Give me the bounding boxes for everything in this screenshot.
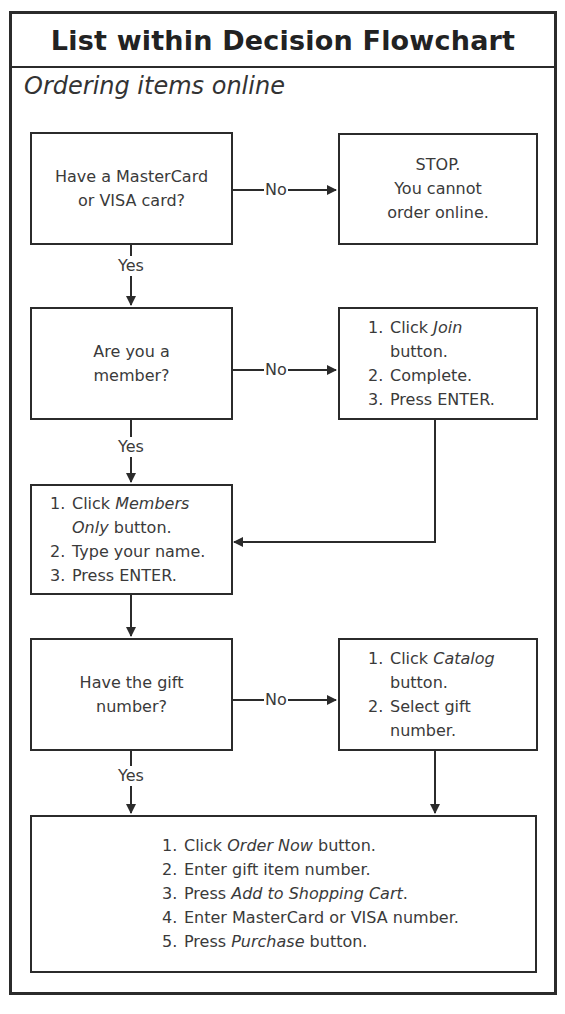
node-text: or VISA card? [78,189,185,213]
step-text: Press ENTER. [390,390,495,409]
process-order-steps: 1. Click Order Now button. 2. Enter gift… [30,815,537,973]
decision-has-card: Have a MasterCard or VISA card? [30,132,233,245]
step-item: 5. Press Purchase button. [162,930,535,954]
step-text: Press [184,932,231,951]
step-item: 3. Press ENTER. [50,564,231,588]
step-text: Click [390,649,433,668]
step-continuation: Only button. [50,516,231,540]
step-number: 3. [50,564,65,588]
step-text: Enter MasterCard or VISA number. [184,908,459,927]
step-number: 5. [162,930,177,954]
terminal-stop: STOP. You cannot order online. [338,133,538,245]
step-text: number. [390,721,456,740]
decision-is-member: Are you a member? [30,307,233,420]
step-emphasis: Add to Shopping Cart [231,884,403,903]
step-item: 1. Click Order Now button. [162,834,535,858]
diagram-subtitle: Ordering items online [24,72,285,100]
edge-label-no: No [264,360,288,380]
step-number: 2. [50,540,65,564]
step-text: Press ENTER. [72,566,177,585]
step-list: 1. Click Order Now button. 2. Enter gift… [162,834,535,954]
edge-label-yes: Yes [117,766,145,786]
step-text: button. [313,836,376,855]
step-item: 4. Enter MasterCard or VISA number. [162,906,535,930]
step-text: button. [109,518,172,537]
edge-label-no: No [264,690,288,710]
step-text: Click [72,494,115,513]
step-emphasis: Join [433,318,462,337]
step-item: 2. Select gift [368,695,536,719]
step-number: 1. [368,316,383,340]
decision-has-gift-number: Have the gift number? [30,638,233,751]
step-number: 1. [50,492,65,516]
step-item: 2. Complete. [368,364,536,388]
step-number: 1. [368,647,383,671]
step-list: 1. Click Catalog button. 2. Select gift … [368,647,536,743]
node-text: order online. [387,201,489,225]
step-text: Click [390,318,433,337]
process-catalog-steps: 1. Click Catalog button. 2. Select gift … [338,638,538,751]
step-item: 3. Press ENTER. [368,388,536,412]
step-text: Enter gift item number. [184,860,371,879]
step-continuation: button. [368,340,536,364]
node-text: STOP. [416,153,461,177]
step-number: 1. [162,834,177,858]
node-text: You cannot [394,177,482,201]
edge-label-yes: Yes [117,256,145,276]
step-text: Click [184,836,227,855]
step-continuation: number. [368,719,536,743]
step-text: button. [390,673,448,692]
diagram-title: List within Decision Flowchart [12,14,554,66]
step-number: 4. [162,906,177,930]
step-list: 1. Click Members Only button. 2. Type yo… [50,492,231,588]
step-item: 1. Click Join [368,316,536,340]
step-number: 2. [162,858,177,882]
step-number: 3. [368,388,383,412]
node-text: number? [96,695,167,719]
step-item: 2. Type your name. [50,540,231,564]
step-text: Type your name. [72,542,205,561]
step-item: 2. Enter gift item number. [162,858,535,882]
step-emphasis: Catalog [433,649,494,668]
step-number: 2. [368,364,383,388]
node-text: member? [93,364,169,388]
step-text: Select gift [390,697,471,716]
step-emphasis: Only [72,518,109,537]
node-text: Are you a [93,340,169,364]
step-item: 3. Press Add to Shopping Cart. [162,882,535,906]
step-item: 1. Click Catalog [368,647,536,671]
step-list: 1. Click Join button. 2. Complete. 3. Pr… [368,316,536,412]
step-continuation: button. [368,671,536,695]
edge-label-no: No [264,180,288,200]
step-text: button. [305,932,368,951]
step-emphasis: Order Now [227,836,313,855]
title-divider [12,66,554,68]
node-text: Have a MasterCard [55,165,208,189]
step-text: Complete. [390,366,472,385]
step-text: Press [184,884,231,903]
edge-label-yes: Yes [117,437,145,457]
process-member-steps: 1. Click Members Only button. 2. Type yo… [30,484,233,595]
step-emphasis: Purchase [231,932,304,951]
step-number: 2. [368,695,383,719]
step-text: button. [390,342,448,361]
process-join-steps: 1. Click Join button. 2. Complete. 3. Pr… [338,307,538,420]
node-text: Have the gift [80,671,184,695]
step-emphasis: Members [115,494,189,513]
step-item: 1. Click Members [50,492,231,516]
step-number: 3. [162,882,177,906]
step-text: . [403,884,408,903]
